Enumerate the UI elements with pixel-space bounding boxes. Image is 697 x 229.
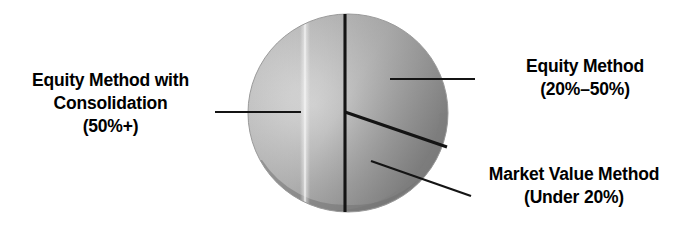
label-line-2: (Under 20%) — [455, 186, 693, 209]
label-line-3: (50%+) — [8, 115, 213, 138]
label-equity-method-with-consolidation: Equity Method with Consolidation (50%+) — [8, 69, 213, 138]
label-line-2: (20%–50%) — [479, 78, 691, 101]
label-line-1: Market Value Method — [455, 163, 693, 186]
sphere-pie-figure: Equity Method with Consolidation (50%+) … — [0, 0, 697, 229]
label-line-1: Equity Method — [479, 55, 691, 78]
label-line-2: Consolidation — [8, 92, 213, 115]
label-equity-method: Equity Method (20%–50%) — [479, 55, 691, 101]
label-line-1: Equity Method with — [8, 69, 213, 92]
label-market-value-method: Market Value Method (Under 20%) — [455, 163, 693, 209]
